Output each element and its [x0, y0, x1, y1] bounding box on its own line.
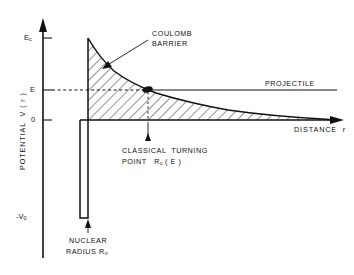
y-tick-v0-main: -V	[16, 212, 24, 221]
nuclear-radius-label-radius: RADIUS R	[66, 247, 105, 256]
nuclear-radius-label-sub: n	[105, 250, 108, 256]
coulomb-barrier-label-line2: BARRIER	[152, 39, 188, 49]
y-tick-ec-sub: c	[29, 36, 32, 42]
y-tick-label-e: E	[30, 85, 35, 94]
nuclear-well	[80, 38, 88, 218]
y-tick-v0-sub: 0	[24, 215, 27, 221]
projectile-label: PROJECTILE	[265, 79, 315, 89]
y-tick-zero-main: 0	[31, 115, 35, 124]
nuclear-radius-label-line2: RADIUS Rn	[66, 247, 108, 259]
turning-point-label-energy: ( E )	[163, 157, 182, 166]
y-axis-ticks	[43, 38, 52, 120]
coulomb-barrier-leader	[102, 40, 148, 69]
y-tick-label-v0: -V0	[16, 212, 27, 221]
nuclear-radius-label-line1: NUCLEAR	[69, 236, 107, 246]
turning-point-label-line1: CLASSICAL TURNING	[122, 146, 208, 156]
turning-point-label-line2: POINT Rc ( E )	[122, 157, 181, 169]
potential-energy-diagram: POTENTIAL V ( r ) Ec E 0 -V0 DISTANCE r …	[0, 0, 354, 275]
x-axis-title: DISTANCE r	[294, 125, 346, 135]
nuclear-radius-pointer	[85, 219, 91, 233]
turning-point-label-point: POINT R	[122, 157, 160, 166]
y-axis-title: POTENTIAL V ( r )	[18, 92, 27, 170]
y-tick-e-main: E	[30, 85, 35, 94]
y-tick-label-ec: Ec	[24, 33, 32, 42]
y-axis	[39, 18, 47, 258]
y-tick-label-zero: 0	[31, 115, 35, 124]
coulomb-barrier-label-line1: COULOMB	[152, 29, 192, 39]
